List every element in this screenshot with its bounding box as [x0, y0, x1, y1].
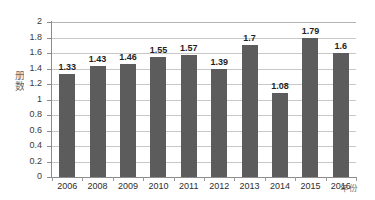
x-tick-label: 2009	[111, 181, 145, 191]
x-tick-label: 2014	[263, 181, 297, 191]
y-tick-label: 1.8	[14, 32, 42, 42]
bar-data-label: 1.6	[324, 41, 358, 51]
x-tick-label: 2006	[50, 181, 84, 191]
bar	[120, 64, 136, 177]
y-tick-label: 1.4	[14, 63, 42, 73]
y-tick-mark	[47, 22, 52, 23]
bar	[90, 66, 106, 177]
y-tick-label: 0.2	[14, 156, 42, 166]
y-tick-label: 1.2	[14, 78, 42, 88]
y-tick-label: 0.6	[14, 125, 42, 135]
y-tick-mark	[47, 100, 52, 101]
bar-data-label: 1.43	[81, 54, 115, 64]
bar-data-label: 1.7	[233, 33, 267, 43]
bar	[181, 55, 197, 177]
y-tick-label: 1.6	[14, 47, 42, 57]
y-tick-label: 0	[14, 171, 42, 181]
y-tick-mark	[47, 84, 52, 85]
x-tick-label: 2013	[233, 181, 267, 191]
y-tick-mark	[47, 53, 52, 54]
bar	[59, 74, 75, 177]
bar-data-label: 1.33	[50, 62, 84, 72]
y-tick-mark	[47, 162, 52, 163]
bar-data-label: 1.39	[202, 57, 236, 67]
bar-data-label: 1.55	[141, 45, 175, 55]
y-tick-label: 2	[14, 16, 42, 26]
y-tick-label: 0.4	[14, 140, 42, 150]
y-tick-mark	[47, 146, 52, 147]
bar-data-label: 1.79	[293, 26, 327, 36]
x-tick-label: 2015	[293, 181, 327, 191]
bar-data-label: 1.57	[172, 43, 206, 53]
bar-data-label: 1.08	[263, 81, 297, 91]
x-tick-label: 2008	[81, 181, 115, 191]
bar	[302, 38, 318, 177]
y-tick-mark	[47, 38, 52, 39]
bar	[242, 45, 258, 177]
bar-data-label: 1.46	[111, 52, 145, 62]
x-tick-label: 2010	[141, 181, 175, 191]
bar	[211, 69, 227, 177]
bar-chart: 册数 21.81.61.41.210.80.60.40.20 200620082…	[0, 0, 375, 200]
bar	[150, 57, 166, 177]
y-tick-mark	[47, 115, 52, 116]
y-tick-mark	[47, 131, 52, 132]
y-tick-label: 1	[14, 94, 42, 104]
x-tick-label: 2012	[202, 181, 236, 191]
x-tick-label: 2011	[172, 181, 206, 191]
gridline	[52, 22, 356, 23]
bar	[272, 93, 288, 177]
y-tick-label: 0.8	[14, 109, 42, 119]
bar	[333, 53, 349, 177]
x-axis-title: 年份	[340, 181, 358, 193]
